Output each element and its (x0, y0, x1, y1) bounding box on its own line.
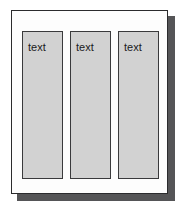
text-column-2-label: text (76, 42, 94, 53)
column-group: text text text (22, 31, 159, 179)
text-column-3[interactable]: text (118, 31, 159, 179)
text-column-1[interactable]: text (22, 31, 63, 179)
diagram-canvas: text text text (0, 0, 181, 215)
text-column-2[interactable]: text (70, 31, 111, 179)
text-column-3-label: text (124, 42, 142, 53)
text-column-1-label: text (28, 42, 46, 53)
page-sheet: text text text (11, 10, 168, 194)
